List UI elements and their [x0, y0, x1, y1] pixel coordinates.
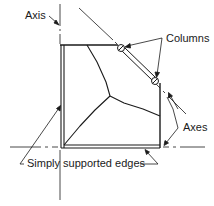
- axis-label: Axis: [25, 9, 46, 21]
- axis-leader: [49, 16, 59, 25]
- axes-leader: [164, 93, 178, 146]
- free-diagonal-edge: [122, 48, 155, 80]
- yield-lines: [64, 45, 160, 145]
- slab-yield-line-diagram: Axis Columns Axes Simply supported edges: [0, 0, 214, 206]
- column-right: [152, 78, 159, 85]
- simply-supported-edges-leader: [20, 106, 158, 165]
- simply-supported-edges-label: Simply supported edges: [27, 157, 146, 169]
- columns-label: Columns: [166, 32, 210, 44]
- simply-supported-left-edge: [61, 45, 64, 148]
- simply-supported-bottom-edge: [61, 145, 160, 148]
- axes-label: Axes: [183, 121, 208, 133]
- column-top: [118, 45, 125, 52]
